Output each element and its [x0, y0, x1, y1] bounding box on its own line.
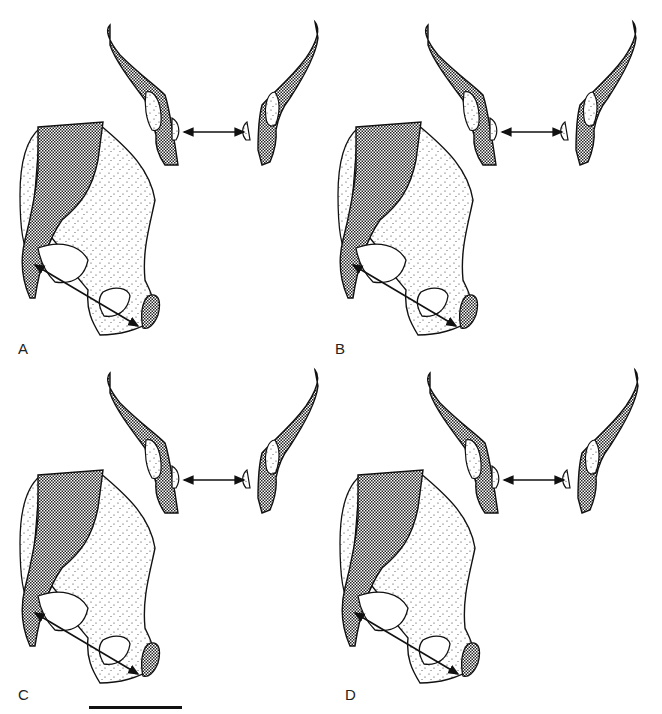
panel-b: [338, 22, 636, 335]
scale-bar: [89, 706, 182, 709]
panel-label-c: C: [18, 686, 29, 703]
pelvis-diagram: [0, 0, 662, 714]
panel-a: [20, 22, 318, 335]
panel-label-b: B: [335, 340, 345, 357]
panel-label-d: D: [345, 686, 356, 703]
panel-c: [20, 370, 318, 683]
panel-d: [340, 370, 638, 683]
panel-label-a: A: [18, 340, 28, 357]
